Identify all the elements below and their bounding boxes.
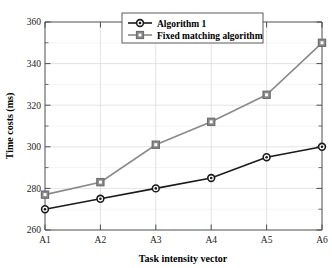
- y-tick-label-1: 280: [27, 184, 42, 194]
- data-point-circle-center: [210, 177, 213, 180]
- data-point-circle-center: [321, 146, 324, 149]
- y-tick-label-4: 340: [27, 59, 42, 69]
- y-tick-label-0: 260: [27, 225, 42, 235]
- circle-marker-center-icon: [139, 22, 142, 25]
- data-point-square-center: [265, 93, 268, 96]
- legend-label-1: Fixed matching algorithm: [157, 31, 263, 41]
- chart-figure: 260280300320340360 A1A2A3A4A5A6 Task int…: [0, 0, 332, 268]
- data-point-circle-center: [99, 198, 102, 201]
- x-tick-label-2: A3: [150, 235, 162, 245]
- line-chart: 260280300320340360 A1A2A3A4A5A6 Task int…: [0, 0, 332, 268]
- x-tick-label-3: A4: [205, 235, 217, 245]
- legend-label-0: Algorithm 1: [157, 19, 207, 29]
- y-tick-label-3: 320: [27, 101, 42, 111]
- y-axis-title: Time costs (ms): [4, 93, 16, 159]
- y-tick-label-2: 300: [27, 142, 42, 152]
- y-tick-label-5: 360: [27, 17, 42, 27]
- data-point-square-center: [154, 143, 157, 146]
- data-point-circle-center: [265, 156, 268, 159]
- data-point-square-center: [44, 193, 47, 196]
- data-point-square-center: [99, 181, 102, 184]
- data-point-circle-center: [44, 208, 47, 211]
- x-tick-label-4: A5: [261, 235, 273, 245]
- data-point-square-center: [321, 41, 324, 44]
- square-marker-center-icon: [139, 34, 142, 37]
- x-axis-title: Task intensity vector: [139, 253, 228, 264]
- legend-entry-algorithm-1[interactable]: Algorithm 1: [128, 19, 207, 29]
- data-point-square-center: [210, 120, 213, 123]
- data-point-circle-center: [155, 187, 158, 190]
- x-tick-label-5: A6: [316, 235, 328, 245]
- x-tick-label-1: A2: [95, 235, 107, 245]
- chart-legend[interactable]: Algorithm 1 Fixed matching algorithm: [122, 13, 263, 43]
- x-tick-label-0: A1: [39, 235, 51, 245]
